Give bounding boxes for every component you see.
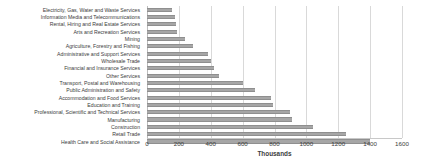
bar <box>147 103 273 107</box>
bar <box>147 22 176 26</box>
category-label-row: Other Services <box>0 72 143 79</box>
bar-row <box>147 13 402 20</box>
category-label-row: Rental, Hiring and Real Estate Services <box>0 21 143 28</box>
category-label: Health Care and Social Assistance <box>61 139 140 145</box>
category-label-row: Mining <box>0 35 143 42</box>
category-label-row: Education and Training <box>0 101 143 108</box>
bar <box>147 125 313 129</box>
x-tick-label: 1000 <box>299 139 313 149</box>
category-label: Education and Training <box>87 102 140 108</box>
bar-row <box>147 65 402 72</box>
bar <box>147 110 290 114</box>
category-label: Information Media and Telecommunications <box>41 14 140 20</box>
bar <box>147 30 177 34</box>
bar <box>147 52 208 56</box>
bar-row <box>147 123 402 130</box>
bar-row <box>147 109 402 116</box>
category-label: Wholesale Trade <box>101 58 140 64</box>
category-label: Construction <box>111 124 140 130</box>
category-label: Administrative and Support Services <box>57 51 140 57</box>
category-label-row: Construction <box>0 123 143 130</box>
bar-row <box>147 50 402 57</box>
category-label: Public Administration and Safety <box>66 87 140 93</box>
x-axis-title: Thousands <box>147 150 402 157</box>
bar-row <box>147 21 402 28</box>
category-label: Rental, Hiring and Real Estate Services <box>50 21 140 27</box>
x-tick-label: 1200 <box>331 139 345 149</box>
category-label: Financial and Insurance Services <box>64 65 140 71</box>
category-label: Retail Trade <box>112 131 140 137</box>
bar-row <box>147 87 402 94</box>
category-label: Mining <box>125 36 140 42</box>
bar-row <box>147 28 402 35</box>
category-label-row: Administrative and Support Services <box>0 50 143 57</box>
category-label: Agriculture, Forestry and Fishing <box>66 43 140 49</box>
x-tick-label: 600 <box>237 139 247 149</box>
bar-row <box>147 35 402 42</box>
bar <box>147 15 175 19</box>
bar <box>147 59 211 63</box>
category-label: Manufacturing <box>107 117 140 123</box>
x-tick-label: 1600 <box>395 139 409 149</box>
bar <box>147 117 292 121</box>
category-label-row: Arts and Recreation Services <box>0 28 143 35</box>
category-label-row: Retail Trade <box>0 131 143 138</box>
bar-row <box>147 6 402 13</box>
bar <box>147 81 243 85</box>
category-label-row: Electricity, Gas, Water and Waste Servic… <box>0 6 143 13</box>
x-tick-label: 800 <box>269 139 279 149</box>
category-axis-labels: Electricity, Gas, Water and Waste Servic… <box>0 6 143 138</box>
bar-chart: Electricity, Gas, Water and Waste Servic… <box>0 0 422 167</box>
plot-area: Electricity, Gas, Water and Waste Servic… <box>0 6 422 138</box>
x-tick-label: 200 <box>174 139 184 149</box>
category-label-row: Public Administration and Safety <box>0 87 143 94</box>
x-tick-label: 1400 <box>363 139 377 149</box>
bar <box>147 74 219 78</box>
x-tick-label: 400 <box>206 139 216 149</box>
gridline-1600 <box>402 6 403 138</box>
bar-series <box>147 6 402 138</box>
category-label-row: Manufacturing <box>0 116 143 123</box>
category-label-row: Accommodation and Food Services <box>0 94 143 101</box>
bar <box>147 88 255 92</box>
category-label-row: Financial and Insurance Services <box>0 65 143 72</box>
category-label: Other Services <box>106 73 140 79</box>
x-tick-label: 0 <box>145 139 148 149</box>
bar-row <box>147 57 402 64</box>
bar-row <box>147 79 402 86</box>
bar-row <box>147 94 402 101</box>
bar-row <box>147 72 402 79</box>
bar <box>147 66 214 70</box>
category-label: Arts and Recreation Services <box>73 29 140 35</box>
bar-row <box>147 43 402 50</box>
bar <box>147 44 193 48</box>
bar <box>147 8 172 12</box>
bar <box>147 96 271 100</box>
bar-row <box>147 116 402 123</box>
bar <box>147 37 185 41</box>
category-label: Accommodation and Food Services <box>59 95 140 101</box>
bar-row <box>147 101 402 108</box>
category-label-row: Agriculture, Forestry and Fishing <box>0 43 143 50</box>
category-label-row: Professional, Scientific and Technical S… <box>0 109 143 116</box>
category-label: Electricity, Gas, Water and Waste Servic… <box>43 7 140 13</box>
category-label-row: Wholesale Trade <box>0 57 143 64</box>
category-label-row: Transport, Postal and Warehousing <box>0 79 143 86</box>
bar <box>147 132 346 136</box>
category-label: Professional, Scientific and Technical S… <box>34 109 140 115</box>
bar-row <box>147 131 402 138</box>
category-label: Transport, Postal and Warehousing <box>59 80 140 86</box>
category-label-row: Health Care and Social Assistance <box>0 138 143 145</box>
category-label-row: Information Media and Telecommunications <box>0 13 143 20</box>
